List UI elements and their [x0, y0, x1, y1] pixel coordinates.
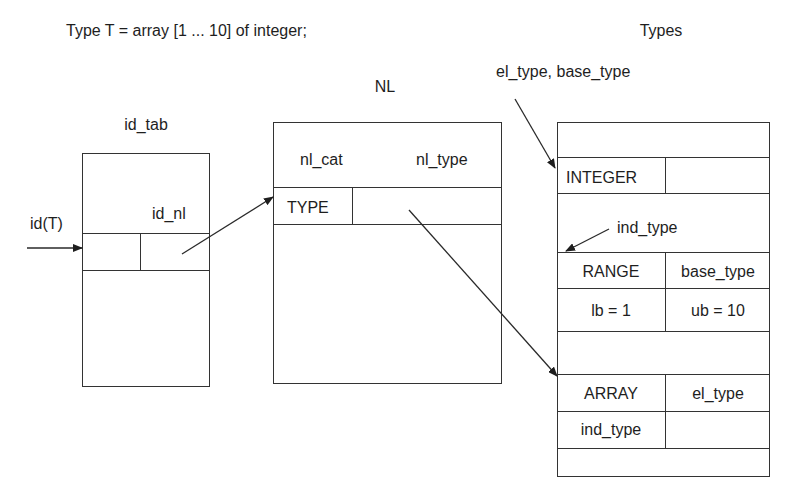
id-tab-row-top-line: [82, 233, 210, 234]
types-integer-divider: [665, 157, 666, 193]
types-line-6: [557, 374, 770, 375]
nl-title: NL: [375, 79, 395, 95]
el-type-cell: el_type: [692, 386, 744, 402]
types-line-5: [557, 331, 770, 332]
types-line-1: [557, 157, 770, 158]
types-line-7: [557, 411, 770, 412]
types-title: Types: [640, 23, 683, 39]
ind-type-pointer-label: ind_type: [617, 220, 678, 236]
el-base-type-to-integer-arrow: [515, 99, 555, 168]
lb-cell: lb = 1: [591, 303, 631, 319]
types-line-2: [557, 193, 770, 194]
types-range-divider: [665, 252, 666, 331]
integer-cell: INTEGER: [566, 170, 637, 186]
id-nl-field-label: id_nl: [152, 206, 186, 222]
nl-header-line: [273, 187, 502, 188]
types-line-8: [557, 448, 770, 449]
types-array-divider: [665, 374, 666, 448]
array-cell: ARRAY: [584, 386, 638, 402]
nl-cat-type-cell: TYPE: [287, 200, 329, 216]
id-tab-row-bottom-line: [82, 270, 210, 271]
nl-row-bottom-line: [273, 224, 502, 225]
nl-type-header: nl_type: [416, 152, 468, 168]
id-tab-row-divider: [140, 233, 141, 270]
ind-type-cell: ind_type: [581, 422, 642, 438]
base-type-cell: base_type: [681, 264, 755, 280]
type-declaration: Type T = array [1 ... 10] of integer;: [66, 23, 307, 39]
ub-cell: ub = 10: [691, 303, 745, 319]
nl-row-divider: [352, 187, 353, 224]
nl-cat-header: nl_cat: [300, 152, 343, 168]
id-t-input-label: id(T): [30, 216, 63, 232]
types-pointer-label: el_type, base_type: [496, 64, 630, 80]
range-cell: RANGE: [583, 264, 640, 280]
types-line-4: [557, 288, 770, 289]
id-tab-title: id_tab: [124, 117, 168, 133]
types-line-3: [557, 252, 770, 253]
